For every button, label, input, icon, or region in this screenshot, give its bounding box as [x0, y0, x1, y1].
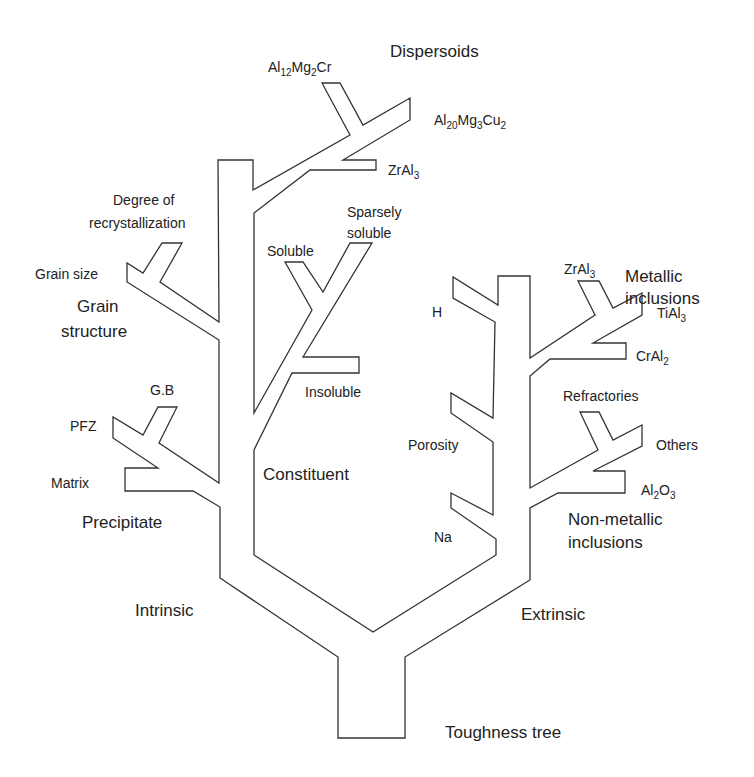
constituent-label: Constituent	[263, 465, 349, 484]
extrinsic-label: Extrinsic	[521, 605, 586, 624]
grain-size-label: Grain size	[35, 266, 98, 282]
soluble-2-label: soluble	[347, 225, 392, 241]
cral2-label: CrAl2	[636, 348, 669, 367]
gb-label: G.B	[150, 382, 174, 398]
structure-label: structure	[61, 322, 127, 341]
pfz-label: PFZ	[70, 418, 97, 434]
toughness-tree-diagram: Dispersoids Al12Mg2Cr Al20Mg3Cu2 ZrAl3 D…	[0, 0, 754, 777]
others-label: Others	[656, 437, 698, 453]
al20mg3cu2-label: Al20Mg3Cu2	[434, 112, 507, 131]
intrinsic-label: Intrinsic	[135, 601, 194, 620]
dispersoids-label: Dispersoids	[390, 42, 479, 61]
h-label: H	[432, 304, 442, 320]
zral3-metallic-label: ZrAl3	[564, 261, 596, 280]
al2o3-label: Al2O3	[641, 482, 676, 501]
metallic-label: Metallic	[625, 267, 683, 286]
recrystallization-label: recrystallization	[89, 215, 185, 231]
non-metallic-inclusions-label: inclusions	[568, 533, 643, 552]
matrix-label: Matrix	[51, 475, 89, 491]
insoluble-label: Insoluble	[305, 384, 361, 400]
grain-label: Grain	[77, 297, 119, 316]
zral3-dispersoid-label: ZrAl3	[388, 162, 420, 181]
toughness-tree-label: Toughness tree	[445, 723, 561, 742]
soluble-label: Soluble	[267, 243, 314, 259]
intrinsic-trunk-outline	[113, 83, 642, 738]
degree-of-label: Degree of	[113, 192, 175, 208]
porosity-label: Porosity	[408, 437, 459, 453]
precipitate-label: Precipitate	[82, 513, 162, 532]
na-label: Na	[434, 529, 452, 545]
non-metallic-label: Non-metallic	[568, 510, 663, 529]
al12mg2cr-label: Al12Mg2Cr	[268, 59, 332, 78]
sparsely-label: Sparsely	[347, 204, 401, 220]
refractories-label: Refractories	[563, 388, 638, 404]
